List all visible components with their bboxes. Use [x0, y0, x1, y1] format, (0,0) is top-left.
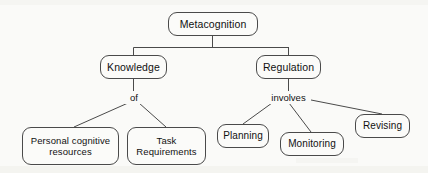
edge-involves-monitoring: [289, 103, 311, 132]
node-label-personal-cognitive-resources: Personal cognitive resources: [28, 135, 113, 157]
node-regulation[interactable]: Regulation: [256, 55, 321, 79]
diagram-canvas: Metacognition Knowledge Regulation Perso…: [0, 0, 428, 173]
node-label-revising: Revising: [360, 120, 405, 132]
node-personal-cognitive-resources[interactable]: Personal cognitive resources: [22, 127, 119, 165]
node-label-monitoring: Monitoring: [285, 138, 339, 150]
node-revising[interactable]: Revising: [355, 114, 410, 138]
node-task-requirements[interactable]: Task Requirements: [127, 127, 206, 165]
node-planning[interactable]: Planning: [217, 124, 269, 148]
edge-of-task: [139, 103, 166, 127]
edge-label-of: of: [125, 92, 143, 104]
edge-label-involves: involves: [266, 92, 311, 104]
node-knowledge[interactable]: Knowledge: [100, 55, 167, 79]
node-label-knowledge: Knowledge: [104, 61, 163, 73]
edge-involves-planning: [243, 103, 272, 124]
node-metacognition[interactable]: Metacognition: [168, 12, 258, 36]
node-label-planning: Planning: [220, 130, 266, 142]
node-label-regulation: Regulation: [260, 61, 317, 73]
node-label-task-requirements: Task Requirements: [133, 135, 199, 157]
node-monitoring[interactable]: Monitoring: [280, 132, 344, 156]
edge-of-personal: [74, 103, 128, 127]
edge-involves-revising: [306, 99, 382, 114]
node-label-metacognition: Metacognition: [177, 18, 250, 30]
